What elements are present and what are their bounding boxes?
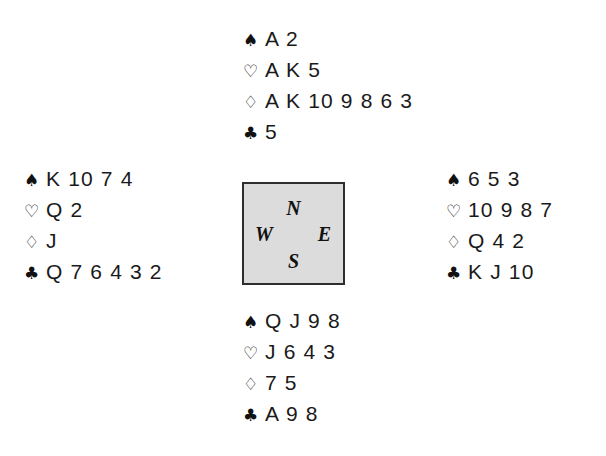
east-clubs-row: ♣ K J 10 xyxy=(446,261,553,292)
club-suit-symbol: ♣ xyxy=(446,265,468,282)
east-hearts-row: ♡ 10 9 8 7 xyxy=(446,199,553,230)
west-hearts-row: ♡ Q 2 xyxy=(24,199,163,230)
south-diamonds-row: ♢ 7 5 xyxy=(243,372,341,403)
north-clubs-cards: 5 xyxy=(265,121,278,142)
east-clubs-cards: K J 10 xyxy=(468,261,534,282)
compass-north-label: N xyxy=(286,198,300,218)
north-clubs-row: ♣ 5 xyxy=(243,121,413,152)
west-spades-row: ♠ K 10 7 4 xyxy=(24,168,163,199)
diamond-suit-symbol: ♢ xyxy=(243,94,265,111)
south-hearts-cards: J 6 4 3 xyxy=(265,341,336,362)
south-spades-row: ♠ Q J 9 8 xyxy=(243,310,341,341)
spade-suit-symbol: ♠ xyxy=(243,32,265,49)
club-suit-symbol: ♣ xyxy=(243,125,265,142)
north-hearts-cards: A K 5 xyxy=(265,59,321,80)
west-diamonds-cards: J xyxy=(46,230,58,251)
heart-suit-symbol: ♡ xyxy=(243,63,265,80)
west-clubs-cards: Q 7 6 4 3 2 xyxy=(46,261,163,282)
diamond-suit-symbol: ♢ xyxy=(243,376,265,393)
heart-suit-symbol: ♡ xyxy=(24,203,46,220)
spade-suit-symbol: ♠ xyxy=(24,172,46,189)
compass-east-label: E xyxy=(318,224,331,244)
diamond-suit-symbol: ♢ xyxy=(24,234,46,251)
north-hand: ♠ A 2 ♡ A K 5 ♢ A K 10 9 8 6 3 ♣ 5 xyxy=(243,28,413,152)
north-diamonds-row: ♢ A K 10 9 8 6 3 xyxy=(243,90,413,121)
spade-suit-symbol: ♠ xyxy=(243,314,265,331)
south-clubs-cards: A 9 8 xyxy=(265,403,319,424)
south-diamonds-cards: 7 5 xyxy=(265,372,298,393)
south-clubs-row: ♣ A 9 8 xyxy=(243,403,341,434)
north-spades-cards: A 2 xyxy=(265,28,299,49)
east-spades-cards: 6 5 3 xyxy=(468,168,520,189)
north-spades-row: ♠ A 2 xyxy=(243,28,413,59)
north-diamonds-cards: A K 10 9 8 6 3 xyxy=(265,90,413,111)
heart-suit-symbol: ♡ xyxy=(243,345,265,362)
spade-suit-symbol: ♠ xyxy=(446,172,468,189)
east-diamonds-cards: Q 4 2 xyxy=(468,230,525,251)
west-spades-cards: K 10 7 4 xyxy=(46,168,133,189)
south-hand: ♠ Q J 9 8 ♡ J 6 4 3 ♢ 7 5 ♣ A 9 8 xyxy=(243,310,341,434)
south-spades-cards: Q J 9 8 xyxy=(265,310,341,331)
east-diamonds-row: ♢ Q 4 2 xyxy=(446,230,553,261)
west-diamonds-row: ♢ J xyxy=(24,230,163,261)
west-hand: ♠ K 10 7 4 ♡ Q 2 ♢ J ♣ Q 7 6 4 3 2 xyxy=(24,168,163,292)
east-spades-row: ♠ 6 5 3 xyxy=(446,168,553,199)
compass-box: N W E S xyxy=(242,182,345,285)
club-suit-symbol: ♣ xyxy=(243,407,265,424)
compass-south-label: S xyxy=(288,251,299,271)
compass-west-label: W xyxy=(255,224,273,244)
bridge-deal-diagram: ♠ A 2 ♡ A K 5 ♢ A K 10 9 8 6 3 ♣ 5 ♠ K 1… xyxy=(0,0,606,456)
north-hearts-row: ♡ A K 5 xyxy=(243,59,413,90)
west-clubs-row: ♣ Q 7 6 4 3 2 xyxy=(24,261,163,292)
west-hearts-cards: Q 2 xyxy=(46,199,83,220)
east-hand: ♠ 6 5 3 ♡ 10 9 8 7 ♢ Q 4 2 ♣ K J 10 xyxy=(446,168,553,292)
diamond-suit-symbol: ♢ xyxy=(446,234,468,251)
east-hearts-cards: 10 9 8 7 xyxy=(468,199,553,220)
heart-suit-symbol: ♡ xyxy=(446,203,468,220)
south-hearts-row: ♡ J 6 4 3 xyxy=(243,341,341,372)
club-suit-symbol: ♣ xyxy=(24,265,46,282)
